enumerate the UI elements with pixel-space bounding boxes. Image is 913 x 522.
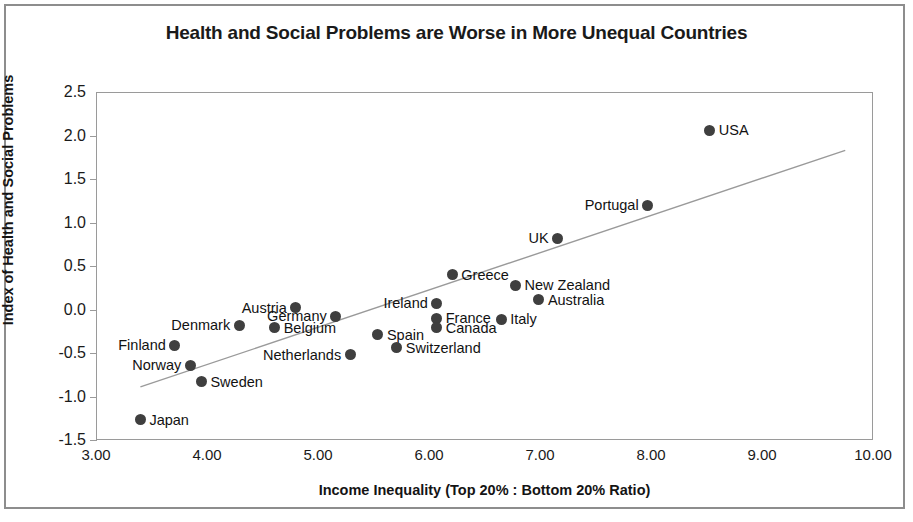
- data-point-label: Denmark: [171, 317, 230, 333]
- x-tick-label: 8.00: [616, 446, 686, 463]
- data-point: [185, 360, 196, 371]
- data-point-label: Japan: [149, 412, 189, 428]
- y-tick-label: 1.5: [26, 170, 86, 188]
- y-tick-label: -1.0: [26, 388, 86, 406]
- data-point-label: Switzerland: [406, 340, 481, 356]
- y-tick-label: 0.5: [26, 257, 86, 275]
- data-point-label: Ireland: [383, 295, 427, 311]
- chart-figure: Health and Social Problems are Worse in …: [0, 0, 913, 522]
- data-point-label: Finland: [118, 337, 166, 353]
- y-axis-title: Index of Health and Social Problems: [0, 10, 16, 390]
- y-tick-label: 0.0: [26, 301, 86, 319]
- chart-title: Health and Social Problems are Worse in …: [0, 22, 913, 44]
- data-point-label: Italy: [510, 311, 537, 327]
- x-tick-label: 9.00: [727, 446, 797, 463]
- x-tick-label: 5.00: [283, 446, 353, 463]
- data-point: [447, 269, 458, 280]
- y-tick-label: 1.0: [26, 214, 86, 232]
- data-point-label: New Zealand: [525, 277, 610, 293]
- data-point: [234, 320, 245, 331]
- data-point-label: Sweden: [210, 374, 262, 390]
- data-point: [345, 349, 356, 360]
- data-point-label: USA: [719, 122, 749, 138]
- y-tick-label: -0.5: [26, 344, 86, 362]
- data-point-label: UK: [529, 230, 549, 246]
- x-axis-title: Income Inequality (Top 20% : Bottom 20% …: [96, 482, 873, 498]
- data-point: [552, 233, 563, 244]
- data-point: [642, 200, 653, 211]
- x-tick-label: 4.00: [172, 446, 242, 463]
- data-point-label: Germany: [267, 308, 327, 324]
- y-tick-label: 2.5: [26, 83, 86, 101]
- y-tick-mark: [90, 440, 97, 441]
- y-tick-label: 2.0: [26, 127, 86, 145]
- x-tick-label: 10.00: [838, 446, 908, 463]
- data-point-label: Canada: [446, 320, 497, 336]
- data-point: [510, 280, 521, 291]
- x-tick-label: 7.00: [505, 446, 575, 463]
- x-tick-label: 6.00: [394, 446, 464, 463]
- data-point-label: Portugal: [585, 197, 639, 213]
- data-point-label: Australia: [548, 292, 604, 308]
- data-point-label: Netherlands: [263, 347, 341, 363]
- data-point: [496, 314, 507, 325]
- data-point-label: Greece: [461, 267, 509, 283]
- data-point: [169, 340, 180, 351]
- data-point-label: Norway: [132, 357, 181, 373]
- x-tick-label: 3.00: [61, 446, 131, 463]
